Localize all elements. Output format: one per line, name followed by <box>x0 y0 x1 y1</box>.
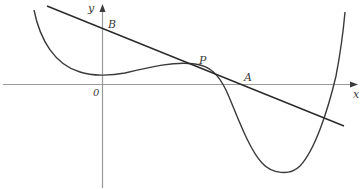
tangent-line <box>47 6 344 126</box>
origin-label: 0 <box>93 87 100 98</box>
y-axis-label: y <box>87 2 95 15</box>
curve <box>34 10 345 172</box>
x-axis-arrow-icon <box>350 82 358 88</box>
point-p-label: P <box>198 54 207 67</box>
point-b-label: B <box>107 18 116 31</box>
graph-figure: y B 0 P A x <box>0 0 361 189</box>
x-axis-label: x <box>353 88 360 101</box>
point-a-label: A <box>243 71 252 84</box>
y-axis-arrow-icon <box>100 4 106 12</box>
